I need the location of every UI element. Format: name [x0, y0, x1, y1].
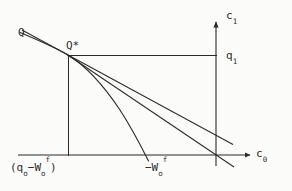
label-axis-c0: c0 [256, 148, 267, 162]
label-axis-c0-base: c [256, 147, 263, 160]
label-origin-sub-two: o [41, 169, 46, 178]
label-tick-q1: q1 [226, 50, 237, 64]
label-axis-c1: c1 [226, 10, 237, 24]
label-minus-wealth-superscript: f [163, 155, 168, 164]
economics-figure: Q Q* c1 q1 c0 (qo−Wof) −Wof [0, 0, 292, 191]
label-origin-minus-w: −W [28, 161, 41, 174]
label-minus-wealth: −Wof [145, 160, 167, 175]
label-origin-bundle: (qo−Wof) [10, 160, 57, 175]
label-curve-Q-text: Q [18, 26, 25, 39]
line-budget-market [67, 55, 234, 168]
label-minus-wealth-subscript: o [158, 169, 163, 178]
label-axis-c1-subscript: 1 [233, 17, 238, 26]
label-axis-c0-subscript: 0 [263, 155, 268, 164]
label-origin-close: ) [50, 161, 57, 174]
label-origin-superscript: f [46, 155, 51, 164]
label-curve-Q: Q [18, 27, 25, 38]
label-minus-wealth-base: −W [145, 161, 158, 174]
label-tick-q1-base: q [226, 49, 233, 62]
line-tangent-shallow [22, 30, 233, 145]
label-origin-sub-one: o [23, 169, 28, 178]
label-point-q-star: Q* [66, 40, 79, 51]
label-origin-open: (q [10, 161, 23, 174]
label-point-q-star-text: Q* [66, 39, 79, 52]
label-tick-q1-subscript: 1 [233, 57, 238, 66]
label-axis-c1-base: c [226, 9, 233, 22]
